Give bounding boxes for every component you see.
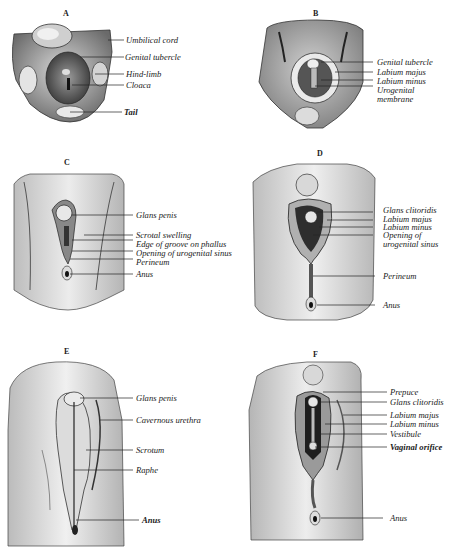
panel-letter: D — [317, 149, 323, 158]
label-prepuce: Prepuce — [390, 388, 418, 397]
label-umbilical-cord: Umbilical cord — [126, 36, 178, 45]
label-anus: Anus — [142, 516, 161, 525]
embryo-cloaca-illustration — [0, 0, 227, 140]
label-perineum: Perineum — [383, 272, 416, 281]
label-glans-penis: Glans penis — [136, 394, 177, 403]
label-perineum: Perineum — [136, 258, 169, 267]
label-cavernous-urethra: Cavernous urethra — [136, 416, 201, 425]
label-glans-penis: Glans penis — [136, 211, 177, 220]
label-membrane: membrane — [377, 95, 413, 104]
male-late-illustration — [0, 340, 227, 550]
panel-d: D Glans clitoridis Labium majus Labium m… — [227, 140, 454, 340]
label-scrotum: Scrotum — [136, 446, 164, 455]
panel-b: B Genital tubercle Labium majus Labium m… — [227, 0, 454, 140]
label-labium-minus: Labium minus — [390, 420, 439, 429]
label-vaginal-orifice: Vaginal orifice — [390, 443, 442, 452]
label-anus: Anus — [136, 270, 153, 279]
label-urogenital-sinus: urogenital sinus — [383, 240, 438, 249]
label-anus: Anus — [390, 514, 407, 523]
label-vestibule: Vestibule — [390, 430, 421, 439]
label-raphe: Raphe — [136, 466, 158, 475]
panel-letter: F — [313, 350, 318, 359]
label-cloaca: Cloaca — [126, 81, 151, 90]
label-hind-limb: Hind-limb — [126, 70, 161, 79]
label-tail: Tail — [124, 108, 138, 117]
panel-letter: C — [64, 158, 70, 167]
panel-a: A Umbilical cord Genital tubercle Hind-l… — [0, 0, 227, 140]
label-genital-tubercle: Genital tubercle — [125, 53, 181, 62]
panel-letter: B — [313, 9, 319, 18]
panel-f: F Prepuce Glans clitoridis Labium majus … — [227, 340, 454, 550]
label-glans-clitoridis: Glans clitoridis — [390, 398, 444, 407]
panel-letter: A — [63, 9, 69, 18]
panel-letter: E — [64, 347, 70, 356]
label-genital-tubercle: Genital tubercle — [377, 58, 433, 67]
panel-e: E Glans penis Cavernous urethra Scrotum … — [0, 340, 227, 550]
label-anus: Anus — [383, 301, 400, 310]
panel-c: C Glans penis Scrotal swelling Edge of g… — [0, 140, 227, 340]
